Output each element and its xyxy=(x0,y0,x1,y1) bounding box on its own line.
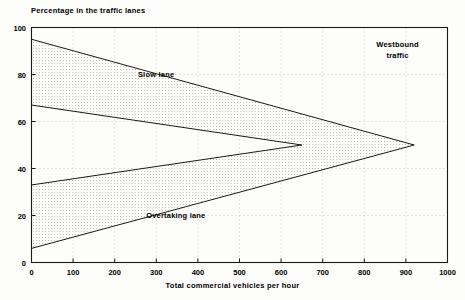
x-tick-label: 400 xyxy=(178,268,218,277)
x-tick-label: 700 xyxy=(303,268,343,277)
x-tick-label: 100 xyxy=(53,268,93,277)
y-tick-label: 80 xyxy=(2,71,26,80)
x-tick-label: 500 xyxy=(220,268,260,277)
x-tick-label: 0 xyxy=(12,268,52,277)
x-tick-label: 1000 xyxy=(428,268,465,277)
y-tick-label: 100 xyxy=(2,24,26,33)
y-tick-label: 40 xyxy=(2,165,26,174)
y-tick-label: 60 xyxy=(2,118,26,127)
y-tick-label: 0 xyxy=(2,259,26,268)
x-tick-label: 800 xyxy=(344,268,384,277)
annotation-westbound-line1: Westbound xyxy=(353,39,443,50)
x-axis-title: Total commercial vehicles per hour xyxy=(0,281,465,290)
annotation-westbound-line2: traffic xyxy=(353,50,443,61)
x-tick-label: 900 xyxy=(386,268,426,277)
annotation-westbound-traffic: Westbound traffic xyxy=(353,39,443,61)
y-tick-label: 20 xyxy=(2,212,26,221)
x-tick-label: 600 xyxy=(261,268,301,277)
x-tick-label: 300 xyxy=(136,268,176,277)
annotation-overtaking-lane: Overtaking lane xyxy=(146,211,266,220)
x-tick-label: 200 xyxy=(95,268,135,277)
chart-container: Percentage in the traffic lanes 02040608… xyxy=(0,0,465,300)
annotation-slow-lane: Slow lane xyxy=(138,70,258,79)
